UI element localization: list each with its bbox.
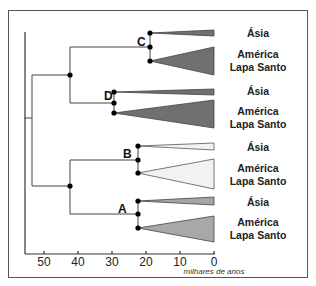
node-label-c: C	[137, 35, 146, 49]
tick-label: 20	[139, 255, 153, 269]
clade-D	[114, 89, 214, 128]
tip-label-lapa-santo: Lapa Santo	[230, 175, 287, 187]
tip-label-america: América	[237, 162, 279, 174]
tip-label-asia: Ásia	[247, 85, 269, 97]
wedge-asia	[114, 89, 214, 95]
tip-label-america: América	[237, 105, 279, 117]
clade-A	[138, 197, 214, 242]
node-label-b: B	[123, 147, 132, 161]
tip-label-asia: Ásia	[247, 196, 269, 208]
wedge-asia	[138, 143, 214, 150]
axis-unit-label: milhares de anos	[184, 267, 245, 276]
wedge-asia	[150, 30, 214, 36]
clade-B	[138, 143, 214, 189]
tip-label-asia: Ásia	[247, 27, 269, 39]
phylogenetic-tree-figure: 50 40 30 20 10 0 milhares de anos	[0, 0, 316, 286]
tip-label-asia: Ásia	[247, 141, 269, 153]
wedge-asia	[138, 197, 214, 205]
clade-C	[150, 30, 214, 75]
tick-label: 40	[71, 255, 85, 269]
tip-labels: Ásia América Lapa Santo Ásia América Lap…	[230, 27, 287, 241]
tip-label-lapa-santo: Lapa Santo	[230, 229, 287, 241]
tree-branches	[25, 33, 150, 228]
tip-label-america: América	[237, 216, 279, 228]
tip-label-lapa-santo: Lapa Santo	[230, 118, 287, 130]
node-dots	[67, 30, 152, 230]
wedge-america	[138, 159, 214, 189]
node-label-a: A	[118, 202, 127, 216]
tick-label: 30	[105, 255, 119, 269]
tree-canvas: 50 40 30 20 10 0 milhares de anos	[0, 0, 316, 286]
wedge-america	[114, 100, 214, 128]
tick-label: 50	[37, 255, 51, 269]
node-label-d: D	[104, 89, 113, 103]
wedge-america	[150, 47, 214, 75]
tip-label-lapa-santo: Lapa Santo	[230, 61, 287, 73]
wedge-america	[138, 216, 214, 242]
tip-label-america: América	[237, 48, 279, 60]
